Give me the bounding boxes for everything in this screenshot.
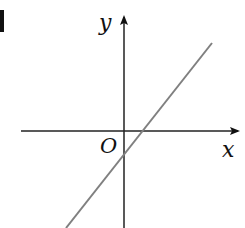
graph-line (66, 43, 212, 228)
x-axis-label: x (222, 137, 235, 162)
y-axis-label: y (98, 10, 112, 35)
diagram-canvas: y O x (0, 0, 245, 228)
origin-label: O (100, 134, 117, 158)
corner-mark (0, 10, 4, 32)
coordinate-diagram: y O x (0, 0, 245, 228)
